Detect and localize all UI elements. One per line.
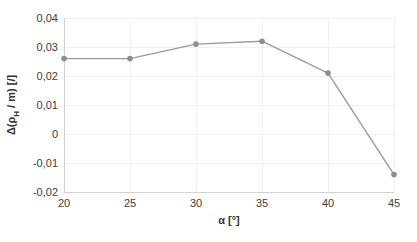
x-tick-label: 30: [190, 197, 202, 209]
data-point: [325, 70, 331, 76]
data-point: [391, 172, 397, 178]
y-tick-label: 0,01: [37, 99, 58, 111]
y-tick-label: 0,02: [37, 70, 58, 82]
y-tick-label: -0,02: [33, 186, 58, 198]
x-axis-title: α [°]: [218, 214, 240, 226]
x-tick-label: 40: [322, 197, 334, 209]
y-tick-label: -0,01: [33, 157, 58, 169]
y-axis-title-text: / m) [/]: [5, 75, 17, 111]
y-tick-label: 0,03: [37, 41, 58, 53]
data-point: [127, 56, 133, 62]
plot-area: -0,02-0,0100,010,020,030,04202530354045: [0, 0, 417, 242]
x-tick-label: 35: [256, 197, 268, 209]
y-tick-label: 0: [52, 128, 58, 140]
y-axis-title: Δ(ρH / m) [/]: [5, 75, 20, 135]
data-point: [259, 38, 265, 44]
line-chart: -0,02-0,0100,010,020,030,04202530354045 …: [0, 0, 417, 242]
y-axis-title-text: Δ(ρ: [5, 117, 17, 135]
y-axis-title-subscript: H: [12, 111, 21, 117]
x-tick-label: 25: [124, 197, 136, 209]
data-line: [64, 41, 394, 174]
x-tick-label: 45: [388, 197, 400, 209]
data-point: [193, 41, 199, 47]
y-tick-label: 0,04: [37, 12, 58, 24]
data-point: [61, 56, 67, 62]
x-tick-label: 20: [58, 197, 70, 209]
